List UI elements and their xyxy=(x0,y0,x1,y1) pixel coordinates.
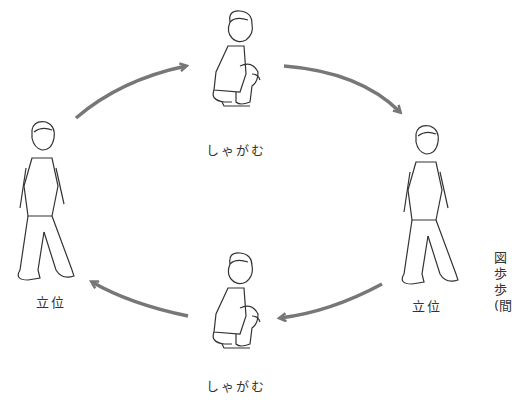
label-squat-bottom: しゃがむ xyxy=(206,376,266,395)
arrow-stand-right-to-squat-bottom xyxy=(280,284,382,318)
squatting-figure-bottom xyxy=(213,253,260,348)
standing-figure-right xyxy=(402,126,458,284)
figure-caption: 図 歩 歩 (間 xyxy=(494,250,512,314)
label-stand-left: 立位 xyxy=(36,292,66,311)
arrow-squat-top-to-stand-right xyxy=(284,66,400,112)
caption-line: 歩 xyxy=(494,282,512,298)
caption-line: 図 xyxy=(494,250,512,266)
label-stand-right: 立位 xyxy=(412,296,442,315)
arrow-squat-bottom-to-stand-left xyxy=(92,282,188,316)
standing-figure-left xyxy=(18,122,74,280)
squatting-figure-top xyxy=(213,11,260,106)
arrow-stand-left-to-squat-top xyxy=(76,66,186,118)
label-squat-top: しゃがむ xyxy=(206,140,266,159)
caption-line: 歩 xyxy=(494,266,512,282)
caption-line: (間 xyxy=(494,298,512,314)
